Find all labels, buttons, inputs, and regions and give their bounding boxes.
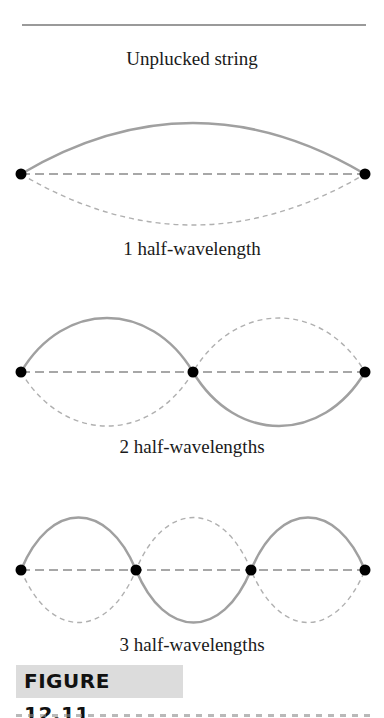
caption-3: 3 half-wavelengths <box>0 634 384 656</box>
node-dot <box>360 565 371 576</box>
node-dot <box>246 565 257 576</box>
title-unplucked-string: Unplucked string <box>0 48 384 70</box>
caption-2: 2 half-wavelengths <box>0 436 384 458</box>
standing-wave-2-diagram <box>0 310 384 435</box>
node-dot <box>16 367 27 378</box>
standing-wave-1-diagram <box>0 110 384 240</box>
node-dot <box>360 367 371 378</box>
node-dot <box>360 169 371 180</box>
node-dot <box>131 565 142 576</box>
dashed-wave-curve <box>21 174 365 225</box>
figure-label: FIGURE 12.11 <box>16 665 183 698</box>
node-dot <box>16 565 27 576</box>
solid-wave-curve <box>21 123 365 174</box>
caption-1: 1 half-wavelength <box>0 238 384 260</box>
top-rule <box>22 24 366 26</box>
truncated-text-line <box>16 710 376 718</box>
node-dot <box>16 169 27 180</box>
standing-wave-3-diagram <box>0 510 384 635</box>
node-dot <box>188 367 199 378</box>
